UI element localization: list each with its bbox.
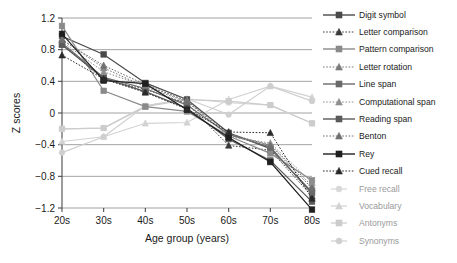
legend-marker-icon (322, 112, 356, 126)
legend-item-digit-symbol[interactable]: Digit symbol (322, 6, 457, 23)
legend-item-benton[interactable]: Benton (322, 128, 457, 145)
data-point (226, 98, 232, 104)
data-point (309, 120, 315, 126)
y-tick-label: −0.4 (35, 139, 55, 150)
data-point (309, 207, 315, 213)
y-tick-label: 1.2 (41, 13, 55, 24)
legend-marker-icon (322, 25, 356, 39)
data-point (59, 23, 65, 29)
data-point (143, 104, 149, 110)
legend-item-pattern-comparison[interactable]: Pattern comparison (322, 41, 457, 58)
data-point (309, 98, 315, 104)
x-tick-label: 70s (262, 215, 278, 226)
legend-label: Letter rotation (356, 62, 412, 72)
legend-label: Cued recall (356, 166, 402, 176)
data-point (101, 134, 107, 140)
line-chart: 1.20.80.40−0.4−0.8−1.220s30s40s50s60s70s… (0, 0, 320, 263)
legend-item-computational-span[interactable]: Computational span (322, 93, 457, 110)
legend-marker-icon (322, 60, 356, 74)
legend-marker-icon (322, 182, 356, 196)
legend-marker-icon (322, 199, 356, 213)
legend-marker-icon (322, 147, 356, 161)
legend-label: Antonyms (356, 218, 397, 228)
x-axis-title: Age group (years) (145, 232, 229, 244)
y-tick-label: −1.2 (35, 203, 55, 214)
legend-marker-icon (322, 234, 356, 248)
legend-item-synonyms[interactable]: Synonyms (322, 232, 457, 249)
y-tick-label: 0.8 (41, 44, 55, 55)
y-axis-title: Z scores (10, 93, 22, 133)
data-point (225, 142, 231, 148)
legend-item-cued-recall[interactable]: Cued recall (322, 163, 457, 180)
x-tick-label: 30s (96, 215, 112, 226)
data-point (268, 159, 274, 165)
legend-item-letter-rotation[interactable]: Letter rotation (322, 58, 457, 75)
legend-label: Line span (356, 79, 396, 89)
legend-marker-icon (322, 164, 356, 178)
data-point (226, 112, 232, 118)
legend-label: Pattern comparison (356, 44, 434, 54)
y-tick-label: 0.4 (41, 76, 55, 87)
legend-item-line-span[interactable]: Line span (322, 76, 457, 93)
data-point (101, 88, 107, 94)
legend-marker-icon (322, 42, 356, 56)
legend-label: Computational span (356, 97, 435, 107)
legend-label: Benton (356, 131, 386, 141)
data-point (268, 151, 274, 157)
data-point (226, 135, 232, 141)
legend-label: Rey (356, 149, 374, 159)
legend-item-letter-comparison[interactable]: Letter comparison (322, 23, 457, 40)
legend-label: Digit symbol (356, 10, 406, 20)
x-tick-label: 20s (54, 215, 70, 226)
data-point (101, 125, 107, 131)
data-point (143, 81, 149, 87)
legend-label: Vocabulary (356, 201, 402, 211)
legend-item-free-recall[interactable]: Free recall (322, 180, 457, 197)
data-point (59, 150, 65, 156)
legend-marker-icon (322, 8, 356, 22)
legend-item-antonyms[interactable]: Antonyms (322, 215, 457, 232)
data-point (267, 129, 273, 135)
x-tick-label: 40s (137, 215, 153, 226)
y-tick-label: −0.8 (35, 171, 55, 182)
legend-item-reading-span[interactable]: Reading span (322, 110, 457, 127)
data-point (101, 52, 107, 58)
legend-item-vocabulary[interactable]: Vocabulary (322, 197, 457, 214)
legend-label: Reading span (356, 114, 412, 124)
data-point (268, 102, 274, 108)
data-point (100, 62, 106, 68)
legend-item-rey[interactable]: Rey (322, 145, 457, 162)
x-tick-label: 60s (221, 215, 237, 226)
data-point (268, 83, 274, 89)
y-tick-label: 0 (49, 108, 55, 119)
data-point (59, 126, 65, 132)
x-tick-label: 50s (179, 215, 195, 226)
legend-label: Synonyms (356, 236, 399, 246)
chart-area: 1.20.80.40−0.4−0.8−1.220s30s40s50s60s70s… (0, 0, 320, 263)
legend-marker-icon (322, 129, 356, 143)
chart-legend: Digit symbolLetter comparisonPattern com… (322, 6, 457, 258)
legend-marker-icon (322, 216, 356, 230)
legend-label: Free recall (356, 184, 400, 194)
data-point (59, 52, 65, 58)
x-tick-label: 80s (304, 215, 320, 226)
legend-label: Letter comparison (356, 27, 428, 37)
legend-marker-icon (322, 95, 356, 109)
data-point (59, 31, 65, 37)
legend-marker-icon (322, 77, 356, 91)
